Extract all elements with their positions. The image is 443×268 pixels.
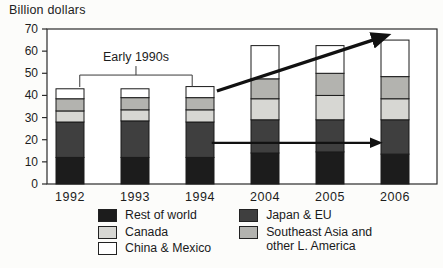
legend-label: Japan & EU (266, 208, 332, 223)
legend-label: Rest of world (125, 208, 197, 223)
legend-item-china-mexico: China & Mexico (98, 241, 211, 256)
canada-swatch-icon (98, 226, 117, 239)
legend-item-japan-eu: Japan & EU (239, 208, 384, 223)
legend-item-se-asia: Southeast Asia and other L. America (239, 225, 384, 254)
chart-legend: Rest of world Canada China & Mexico Japa… (98, 208, 384, 258)
svg-text:50: 50 (25, 66, 39, 80)
svg-text:70: 70 (25, 22, 39, 36)
legend-item-canada: Canada (98, 225, 211, 240)
legend-label: Canada (125, 225, 168, 240)
china-mexico-swatch-icon (98, 242, 117, 255)
svg-text:1992: 1992 (55, 190, 85, 204)
svg-text:0: 0 (31, 177, 38, 191)
svg-text:Early 1990s: Early 1990s (103, 50, 169, 64)
legend-column-2: Japan & EU Southeast Asia and other L. A… (239, 208, 384, 258)
stacked-bar-figure: Billion dollars 010203040506070199219931… (0, 0, 443, 268)
se-asia-swatch-icon (239, 226, 258, 239)
svg-text:2006: 2006 (380, 190, 410, 204)
svg-text:1994: 1994 (185, 190, 215, 204)
legend-item-rest-of-world: Rest of world (98, 208, 211, 223)
legend-label: China & Mexico (125, 241, 211, 256)
chart-svg: 010203040506070199219931994200420052006E… (0, 0, 443, 206)
svg-text:20: 20 (25, 133, 39, 147)
svg-text:10: 10 (25, 155, 39, 169)
svg-text:60: 60 (25, 44, 39, 58)
svg-text:30: 30 (25, 111, 39, 125)
legend-label: Southeast Asia and other L. America (266, 225, 384, 254)
svg-text:40: 40 (25, 88, 39, 102)
svg-text:1993: 1993 (120, 190, 150, 204)
rest-of-world-swatch-icon (98, 209, 117, 222)
svg-text:2004: 2004 (250, 190, 280, 204)
svg-text:2005: 2005 (315, 190, 345, 204)
legend-column-1: Rest of world Canada China & Mexico (98, 208, 211, 258)
japan-eu-swatch-icon (239, 209, 258, 222)
